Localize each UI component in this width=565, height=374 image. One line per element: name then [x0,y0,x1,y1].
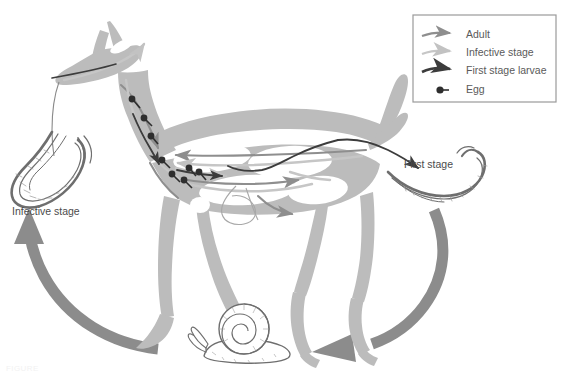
legend-label-first-stage: First stage larvae [466,64,547,76]
cycle-arrow-snail-to-host [14,208,158,349]
first-stage-larva-drawing [388,147,487,202]
legend-box: Adult Infective stage First stage larvae… [413,15,556,102]
infective-stage-label: Infective stage [12,205,80,217]
legend-label-adult: Adult [466,28,490,40]
snail-illustration [188,304,290,363]
cycle-arrow-host-to-snail [312,210,443,362]
figure-caption: FIGURE [6,364,39,373]
legend-label-egg: Egg [466,83,485,95]
life-cycle-diagram: Infective stage First stage [0,0,565,374]
legend-label-infective: Infective stage [466,46,534,58]
mouth-exit-line [52,82,59,156]
first-stage-label: First stage [404,158,453,170]
figure-canvas: Infective stage First stage [0,0,565,374]
infective-larva-drawing [12,132,92,208]
